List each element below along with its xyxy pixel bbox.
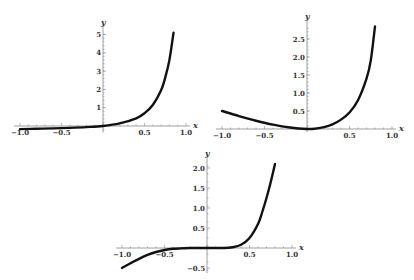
y-tick-label: 1 [96,103,101,112]
x-tick-label: −0.5 [255,131,273,140]
x-tick-label: −1.0 [113,250,131,259]
function-plots: −1.0−0.50.51.012345xy −1.0−0.50.51.00.51… [0,0,414,280]
y-tick-label: 2 [96,85,101,94]
y-tick-label: 0.5 [193,224,205,233]
y-tick-label: 5 [96,30,101,39]
y-tick-label: 1.0 [293,89,305,98]
x-tick-label: 1.0 [286,250,298,259]
x-tick-label: 1.0 [180,128,192,137]
x-axis-label: x [192,120,198,130]
y-tick-label: 2.5 [293,35,305,44]
x-tick-label: −1.0 [213,131,231,140]
plot-cubic-like-curve: −1.0−0.50.51.0−0.50.51.01.52.0xy [113,148,304,273]
x-tick-label: 0.5 [243,250,255,259]
function-curve [20,33,174,129]
y-tick-label: 3 [96,67,101,76]
x-tick-label: 0.5 [343,131,355,140]
y-tick-label: 2.0 [193,164,205,173]
x-axis-label: x [398,123,404,133]
y-axis-label: y [304,11,311,21]
y-axis-label: y [100,17,107,27]
plot-u-shaped-curve: −1.0−0.50.51.00.51.01.52.02.5xy [213,11,404,140]
y-tick-label: 1.5 [293,71,305,80]
y-tick-label: 0.5 [293,107,305,116]
y-tick-label: 1.0 [193,204,205,213]
x-axis-label: x [298,242,304,252]
y-tick-label: 1.5 [193,184,205,193]
y-tick-label: −0.5 [187,264,205,273]
x-tick-label: 1.0 [386,131,398,140]
y-tick-label: 2.0 [293,53,305,62]
plot-exponential-growth: −1.0−0.50.51.012345xy [11,17,198,137]
y-tick-label: 4 [96,48,101,57]
x-tick-label: 0.5 [138,128,150,137]
y-axis-label: y [204,148,211,158]
